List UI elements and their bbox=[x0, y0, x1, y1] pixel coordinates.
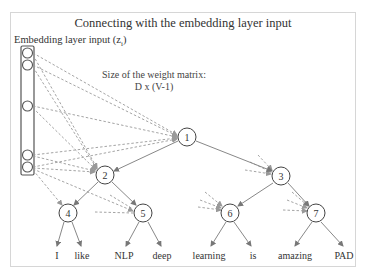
leaf-word-PAD: PAD bbox=[334, 250, 353, 261]
edge-3-6 bbox=[238, 183, 273, 206]
tree-node-1: 1 bbox=[178, 128, 196, 146]
edge-2-4 bbox=[74, 182, 98, 205]
tree-node-6: 6 bbox=[221, 204, 239, 222]
embedding-unit-circle bbox=[23, 162, 33, 172]
node-label: 2 bbox=[103, 170, 108, 181]
tree-node-2: 2 bbox=[96, 166, 114, 184]
leaf-word-learning: learning bbox=[193, 250, 226, 261]
edge-5-leaf-deep bbox=[148, 222, 161, 246]
tree-node-5: 5 bbox=[134, 204, 152, 222]
embedding-layer-box bbox=[21, 46, 34, 175]
edge-1-3 bbox=[196, 141, 272, 171]
node-label: 4 bbox=[66, 208, 71, 219]
node-label: 1 bbox=[185, 132, 190, 143]
leaf-word-deep: deep bbox=[153, 250, 172, 261]
edge-7-leaf-amazing bbox=[295, 222, 312, 246]
leaf-word-I: I bbox=[55, 250, 58, 261]
edge-6-leaf-is bbox=[234, 222, 251, 246]
leaf-word-is: is bbox=[250, 250, 257, 261]
node-label: 5 bbox=[141, 208, 146, 219]
edge-6-leaf-learning bbox=[211, 222, 226, 246]
embedding-unit-circle bbox=[23, 48, 33, 58]
tree-edges bbox=[57, 141, 343, 246]
edge-3-7 bbox=[288, 183, 309, 206]
node-label: 7 bbox=[314, 208, 319, 219]
edge-1-2 bbox=[114, 141, 178, 171]
tree-node-3: 3 bbox=[272, 167, 290, 185]
edge-2-5 bbox=[112, 182, 136, 205]
edge-7-leaf-PAD bbox=[321, 222, 343, 246]
leaf-word-like: like bbox=[75, 250, 90, 261]
tree-node-4: 4 bbox=[59, 204, 77, 222]
embedding-unit-circle bbox=[23, 60, 33, 70]
edge-5-leaf-NLP bbox=[126, 222, 139, 246]
leaf-word-NLP: NLP bbox=[115, 250, 134, 261]
edge-4-leaf-I bbox=[57, 222, 64, 246]
leaf-word-amazing: amazing bbox=[278, 250, 312, 261]
edge-4-leaf-like bbox=[72, 222, 81, 246]
embedding-unit-circle bbox=[23, 101, 33, 111]
tree-node-7: 7 bbox=[307, 204, 325, 222]
node-label: 3 bbox=[279, 171, 284, 182]
weight-connections bbox=[33, 53, 308, 213]
tree-diagram-svg: 1 2 3 4 5 6 7 bbox=[0, 0, 366, 278]
node-label: 6 bbox=[228, 208, 233, 219]
embedding-unit-circle bbox=[23, 150, 33, 160]
